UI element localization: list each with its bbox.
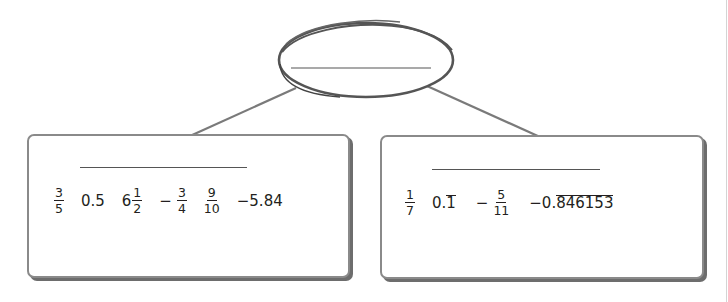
connector-left (190, 88, 296, 136)
number-item: 0.1 (432, 194, 456, 212)
fraction: 511 (493, 188, 509, 217)
fraction: 910 (204, 186, 220, 215)
left-number-list: 35 0.5 6 12 − 34 910 −5.84 (54, 186, 300, 215)
number-item: 0.5 (81, 192, 105, 210)
number-item: 6 12 (122, 186, 143, 215)
number-item: 35 (54, 186, 64, 215)
fraction: 12 (132, 186, 142, 215)
left-blank-line[interactable] (80, 167, 247, 168)
fraction: 35 (54, 186, 64, 215)
number-item: 910 (204, 186, 220, 215)
connector-right (427, 86, 540, 137)
number-item: − 34 (159, 186, 187, 215)
root-oval (279, 21, 453, 97)
number-item: −0.846153 (529, 194, 613, 212)
number-item: 17 (405, 188, 415, 217)
page-edge (726, 0, 727, 302)
repeating-bar: 1 (446, 195, 456, 210)
number-item: − 511 (476, 188, 509, 217)
number-item: −5.84 (237, 192, 283, 210)
fraction: 17 (405, 188, 415, 217)
right-blank-line[interactable] (432, 169, 600, 170)
fraction: 34 (177, 186, 187, 215)
right-number-list: 17 0.1 − 511 −0.846153 (405, 188, 630, 217)
repeating-bar: 846153 (556, 195, 613, 210)
